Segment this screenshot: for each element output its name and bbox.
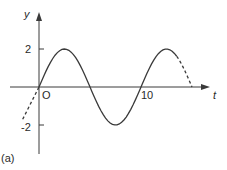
origin-label: O bbox=[42, 90, 51, 101]
panel-label: (a) bbox=[1, 153, 14, 164]
dashed-extension-left bbox=[23, 87, 39, 119]
x-axis-label: t bbox=[213, 90, 216, 101]
axes bbox=[10, 12, 210, 154]
y-axis-label: y bbox=[24, 9, 30, 20]
dashed-extension-right bbox=[177, 56, 192, 87]
x-axis-arrow-icon bbox=[201, 84, 210, 90]
y-tick-label-neg2: -2 bbox=[21, 122, 31, 133]
chart-canvas bbox=[0, 0, 227, 170]
y-axis-arrow-icon bbox=[36, 12, 42, 21]
y-tick-label-2: 2 bbox=[25, 44, 31, 55]
x-tick-label-10: 10 bbox=[141, 90, 153, 101]
